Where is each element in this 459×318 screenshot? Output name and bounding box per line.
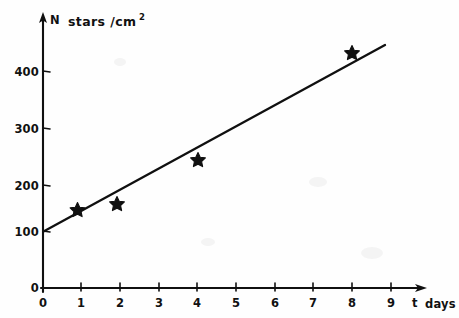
y-tick-label-100: 100 (14, 225, 39, 239)
data-markers (70, 46, 359, 217)
y-tick-labels: 0 100 200 300 400 (14, 65, 39, 295)
y-tick-200 (43, 185, 50, 186)
y-axis-unit-caption: stars /cm 2 (68, 12, 145, 29)
y-tick-300 (43, 128, 50, 129)
y-tick-400 (43, 71, 50, 72)
y-axis-label: N (50, 13, 60, 27)
y-tick-label-300: 300 (14, 122, 39, 136)
y-tick-label-200: 200 (14, 179, 39, 193)
data-point-marker (110, 197, 125, 211)
y-tick-label-400: 400 (14, 65, 39, 79)
x-tick-label-1: 1 (77, 296, 85, 310)
x-tick-labels: 0 1 2 3 4 5 6 7 8 9 (39, 296, 395, 310)
fit-line-path (44, 45, 386, 232)
fit-line (44, 45, 386, 232)
paper-texture (114, 58, 383, 259)
x-tick-label-2: 2 (116, 296, 124, 310)
plot-canvas: 0 100 200 300 400 0 1 2 3 4 5 6 7 8 9 N … (0, 0, 459, 318)
figure-root: 0 100 200 300 400 0 1 2 3 4 5 6 7 8 9 N … (0, 0, 459, 318)
unit-caption-exponent: 2 (139, 12, 145, 22)
x-tick-label-9: 9 (387, 296, 395, 310)
x-tick-label-5: 5 (232, 296, 240, 310)
x-tick-label-7: 7 (309, 296, 317, 310)
unit-caption-text: stars /cm (68, 14, 136, 29)
x-axis-label-symbol: t (412, 296, 418, 310)
x-axis (41, 284, 427, 292)
x-tick-label-0: 0 (39, 296, 47, 310)
x-tick-label-6: 6 (271, 296, 279, 310)
x-tick-label-3: 3 (155, 296, 163, 310)
data-point-marker (345, 46, 360, 60)
x-tick-label-4: 4 (193, 296, 201, 310)
x-axis-label-unit: days (425, 297, 456, 311)
y-tick-label-0: 0 (31, 281, 39, 295)
x-tick-label-8: 8 (348, 296, 356, 310)
y-axis (39, 12, 47, 292)
data-point-marker (191, 153, 206, 167)
